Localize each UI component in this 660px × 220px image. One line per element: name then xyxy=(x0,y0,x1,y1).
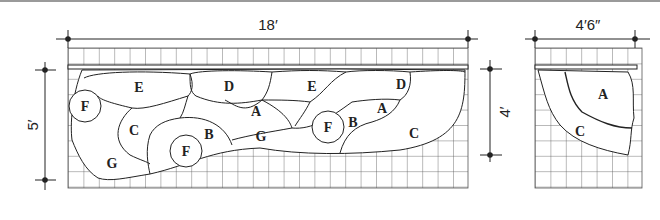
stone-label: D xyxy=(224,79,234,94)
stone-label: F xyxy=(324,120,333,135)
right-plan: 4′6″ A C xyxy=(525,16,650,188)
stone-label: A xyxy=(251,104,262,119)
stone-label: G xyxy=(256,129,267,144)
stone-label: E xyxy=(307,79,316,94)
edging-bar-right xyxy=(535,65,637,69)
stone-label: F xyxy=(182,144,191,159)
stone-label: A xyxy=(598,87,609,102)
width-label: 4′6″ xyxy=(576,16,601,33)
height-4ft-label: 4′ xyxy=(496,106,513,117)
height-dimension-5ft: 5′ xyxy=(24,62,56,190)
stone-label: F xyxy=(81,99,90,114)
width-label: 18′ xyxy=(258,16,278,33)
width-dimension-4ft6in: 4′6″ xyxy=(525,16,650,48)
stone-label: C xyxy=(575,124,585,139)
edging-bar xyxy=(68,65,468,69)
stone-label: B xyxy=(348,115,357,130)
stone-label: B xyxy=(204,127,213,142)
stone-label: C xyxy=(409,126,419,141)
stone-label: C xyxy=(129,123,139,138)
left-plan: 18′ 5′ 4′ xyxy=(24,16,513,190)
stone-label: E xyxy=(134,80,143,95)
height-dimension-4ft: 4′ xyxy=(480,60,513,162)
stone-label: D xyxy=(396,77,406,92)
height-5ft-label: 5′ xyxy=(24,119,41,130)
stone-label: A xyxy=(377,101,388,116)
width-dimension-18ft: 18′ xyxy=(56,16,478,48)
garden-plan-diagram: 18′ 5′ 4′ xyxy=(0,0,660,220)
stone-label: G xyxy=(107,156,118,171)
